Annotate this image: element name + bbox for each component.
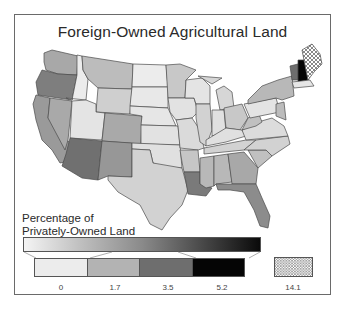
legend-bin-2 <box>139 258 193 277</box>
legend-bins <box>35 258 245 277</box>
legend-label-special: 14.1 <box>278 283 308 292</box>
legend-bin-1 <box>87 258 141 277</box>
legend-label-1: 1.7 <box>100 283 130 292</box>
legend-label-0: 0 <box>46 283 76 292</box>
legend-bin-0 <box>34 258 88 277</box>
legend-crosshatch-swatch <box>274 257 313 277</box>
legend-label-3: 5.2 <box>207 283 237 292</box>
legend-bin-3 <box>192 258 246 277</box>
legend-label-2: 3.5 <box>153 283 183 292</box>
